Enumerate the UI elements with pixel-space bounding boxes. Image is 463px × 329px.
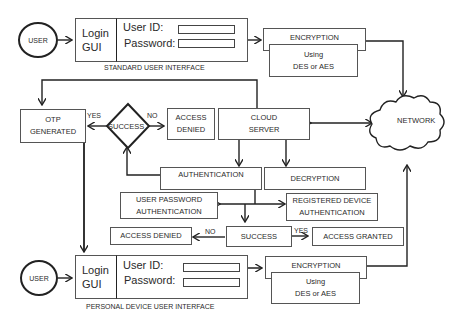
access-denied-top: ACCESS DENIED	[167, 108, 215, 140]
network-label: NETWORK	[397, 116, 435, 125]
user-node-bottom: USER	[20, 260, 58, 296]
registered-device-authentication: REGISTERED DEVICE AUTHENTICATION	[286, 193, 378, 221]
using-label: Using	[304, 49, 323, 61]
access-denied-line1: ACCESS	[176, 112, 207, 124]
algorithm-top: Using DES or AES	[269, 44, 358, 77]
encryption-label: ENCRYPTION	[291, 260, 340, 272]
using-label: Using	[306, 276, 325, 288]
password-field-bottom[interactable]	[183, 278, 240, 287]
decision-label: SUCCESS	[108, 122, 144, 131]
algo-label: DES or AES	[295, 288, 336, 300]
decision-yes: YES	[87, 112, 101, 119]
bottom-no: NO	[205, 228, 216, 235]
password-field-top[interactable]	[178, 39, 235, 48]
rda-line1: REGISTERED DEVICE	[293, 195, 372, 207]
login-label: Login	[82, 26, 109, 40]
login-gui-bottom: Login GUI	[75, 255, 117, 299]
access-denied-bottom: ACCESS DENIED	[110, 227, 192, 245]
authentication-label: AUTHENTICATION	[178, 169, 243, 181]
gui-label: GUI	[82, 40, 102, 54]
user-label: USER	[28, 37, 47, 44]
user-id-label: User ID:	[123, 20, 163, 34]
decision-no: NO	[147, 112, 158, 119]
personal-ui-caption: PERSONAL DEVICE USER INTERFACE	[86, 303, 215, 310]
user-label: USER	[29, 275, 48, 282]
cloud-line1: CLOUD	[251, 112, 277, 124]
success-label: SUCCESS	[241, 231, 277, 243]
cloud-line2: SERVER	[249, 124, 280, 136]
bottom-yes: YES	[294, 227, 308, 234]
user-id-field-top[interactable]	[178, 25, 235, 34]
user-id-field-bottom[interactable]	[183, 263, 240, 272]
decryption: DECRYPTION	[264, 167, 366, 190]
password-label: Password:	[124, 36, 175, 50]
gui-label: GUI	[82, 277, 102, 291]
user-id-label: User ID:	[123, 258, 163, 272]
access-granted-label: ACCESS GRANTED	[323, 231, 393, 243]
encryption-label: ENCRYPTION	[290, 32, 339, 44]
upa-line2: AUTHENTICATION	[136, 206, 201, 218]
algorithm-bottom: Using DES or AES	[271, 272, 360, 304]
access-granted: ACCESS GRANTED	[312, 227, 404, 246]
user-password-authentication: USER PASSWORD AUTHENTICATION	[120, 192, 218, 219]
authentication: AUTHENTICATION	[160, 167, 262, 190]
user-node-top: USER	[18, 22, 58, 58]
login-gui-top: Login GUI	[75, 18, 117, 62]
login-label: Login	[82, 263, 109, 277]
success-bottom: SUCCESS	[226, 226, 292, 247]
password-label: Password:	[124, 273, 175, 287]
rda-line2: AUTHENTICATION	[299, 207, 364, 219]
decryption-label: DECRYPTION	[290, 173, 339, 185]
algo-label: DES or AES	[293, 61, 334, 73]
otp-generated: OTP GENERATED	[20, 109, 86, 143]
access-denied-line2: DENIED	[177, 124, 205, 136]
cloud-server: CLOUD SERVER	[218, 108, 310, 140]
upa-line1: USER PASSWORD	[136, 194, 202, 206]
access-denied-label: ACCESS DENIED	[120, 230, 181, 242]
otp-line2: GENERATED	[30, 126, 76, 138]
otp-line1: OTP	[45, 114, 60, 126]
standard-ui-caption: STANDARD USER INTERFACE	[104, 64, 205, 71]
